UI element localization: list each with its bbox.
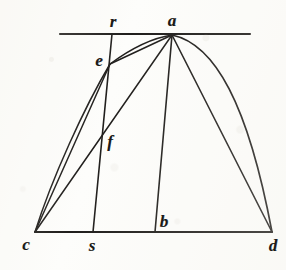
straight-segments-group: [35, 34, 272, 232]
point-label-c: c: [22, 236, 30, 253]
chord-a-to-b: [155, 35, 172, 232]
geometry-figure: raefcsbd: [0, 0, 286, 270]
point-label-d: d: [269, 237, 278, 254]
point-label-s: s: [89, 237, 96, 254]
figure-canvas: [0, 0, 286, 270]
point-label-f: f: [107, 133, 113, 150]
curved-arcs-group: [35, 35, 272, 232]
point-label-b: b: [160, 213, 169, 230]
point-label-r: r: [110, 13, 117, 30]
chord-a-to-d: [172, 35, 272, 232]
chord-c-to-e: [35, 64, 110, 232]
point-label-a: a: [168, 12, 177, 29]
chord-c-to-a: [35, 35, 172, 232]
point-label-e: e: [95, 52, 103, 69]
